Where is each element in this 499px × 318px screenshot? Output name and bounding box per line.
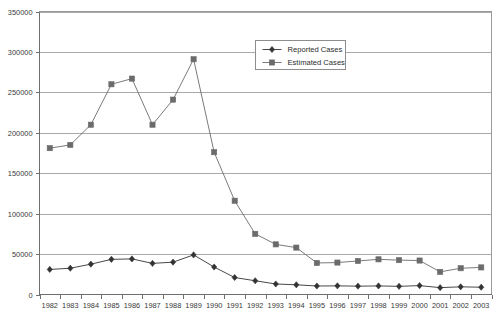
data-point <box>212 264 217 270</box>
data-point <box>150 122 155 127</box>
x-tick-label: 1998 <box>370 301 386 310</box>
x-axis-labels: 1982198319841985198619871988198919901991… <box>42 301 490 310</box>
data-point <box>150 260 155 266</box>
data-point <box>314 283 319 289</box>
data-point <box>335 260 340 265</box>
x-tick-label: 1997 <box>350 301 366 310</box>
data-point <box>88 122 93 127</box>
chart-container: 0500001000001500002000002500003000003500… <box>0 0 499 318</box>
data-point <box>212 150 217 155</box>
data-point <box>355 283 360 289</box>
x-tick-label: 1993 <box>268 301 284 310</box>
x-tick-label: 1994 <box>288 301 304 310</box>
data-point <box>294 282 299 288</box>
y-tick-label: 300000 <box>8 48 33 57</box>
x-tick-label: 1983 <box>62 301 78 310</box>
y-tick-label: 350000 <box>8 8 33 17</box>
x-tick-label: 1985 <box>103 301 119 310</box>
series-reported-cases <box>47 252 484 291</box>
data-point <box>294 245 299 250</box>
chart-legend[interactable]: Reported CasesEstimated Cases <box>256 41 346 70</box>
y-tick-label: 200000 <box>8 129 33 138</box>
y-tick-label: 250000 <box>8 88 33 97</box>
data-point <box>253 231 258 236</box>
data-point <box>47 146 52 151</box>
x-tick-label: 1991 <box>226 301 242 310</box>
legend-marker <box>269 60 274 65</box>
data-point <box>109 82 114 87</box>
data-point <box>479 265 484 270</box>
y-axis-ticks <box>36 13 40 296</box>
data-point <box>68 265 73 271</box>
x-tick-label: 1995 <box>309 301 325 310</box>
y-tick-label: 50000 <box>12 250 33 259</box>
data-point <box>232 274 237 280</box>
data-point <box>314 260 319 265</box>
data-point <box>129 256 134 262</box>
legend-label[interactable]: Reported Cases <box>288 45 343 54</box>
series-estimated-cases <box>47 57 484 275</box>
data-point <box>458 284 463 290</box>
x-tick-label: 1999 <box>391 301 407 310</box>
y-tick-label: 150000 <box>8 169 33 178</box>
data-point <box>376 257 381 262</box>
y-axis-labels: 0500001000001500002000002500003000003500… <box>8 8 33 300</box>
x-tick-label: 2000 <box>411 301 427 310</box>
x-tick-label: 1987 <box>144 301 160 310</box>
x-tick-label: 1986 <box>124 301 140 310</box>
data-point <box>47 266 52 272</box>
x-tick-label: 1989 <box>185 301 201 310</box>
data-point <box>129 76 134 81</box>
x-tick-label: 1996 <box>329 301 345 310</box>
data-point <box>396 258 401 263</box>
data-point <box>253 278 258 284</box>
x-axis-ticks <box>41 295 493 299</box>
data-point <box>88 261 93 267</box>
y-tick-label: 100000 <box>8 210 33 219</box>
data-point <box>396 283 401 289</box>
legend-label[interactable]: Estimated Cases <box>288 58 346 67</box>
data-point <box>458 266 463 271</box>
x-tick-label: 2001 <box>432 301 448 310</box>
x-tick-label: 1992 <box>247 301 263 310</box>
data-point <box>232 198 237 203</box>
data-point <box>335 283 340 289</box>
series-line <box>50 59 481 272</box>
data-point <box>109 256 114 262</box>
data-point <box>376 283 381 289</box>
data-point <box>438 285 443 291</box>
x-tick-label: 1982 <box>42 301 58 310</box>
x-tick-label: 1984 <box>83 301 99 310</box>
x-tick-label: 2003 <box>473 301 489 310</box>
data-point <box>479 284 484 290</box>
data-point <box>170 97 175 102</box>
data-point <box>417 258 422 263</box>
data-point <box>191 57 196 62</box>
data-point <box>170 259 175 265</box>
data-point <box>273 281 278 287</box>
line-chart: 0500001000001500002000002500003000003500… <box>0 0 499 318</box>
data-point <box>417 283 422 289</box>
y-tick-label: 0 <box>28 291 32 300</box>
data-point <box>355 258 360 263</box>
data-point <box>68 142 73 147</box>
x-tick-label: 1990 <box>206 301 222 310</box>
data-point <box>273 242 278 247</box>
data-point <box>438 269 443 274</box>
data-point <box>191 252 196 258</box>
x-tick-label: 2002 <box>452 301 468 310</box>
x-tick-label: 1988 <box>165 301 181 310</box>
series-line <box>50 255 481 288</box>
